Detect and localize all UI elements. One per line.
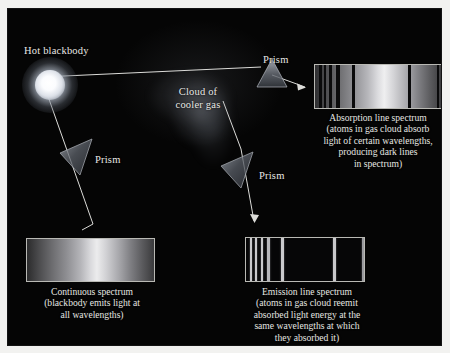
emission-line: [250, 238, 252, 281]
spectroscopy-diagram: Hot blackbody Cloud of cooler gas Prism: [0, 0, 450, 353]
label-hot-blackbody: Hot blackbody: [24, 45, 89, 56]
caption-absorption-line-5: in spectrum): [304, 158, 441, 169]
caption-absorption-line-3: light of certain wavelengths,: [304, 135, 441, 146]
absorption-line: [319, 65, 322, 108]
caption-continuous-line-3: all wavelengths): [16, 309, 168, 320]
emission-line: [333, 238, 335, 281]
emission-line: [267, 238, 271, 281]
label-cloud-line-2: cooler gas: [159, 98, 237, 111]
continuous-spectrum: [26, 238, 155, 282]
caption-emission-line-5: they absorbed it): [236, 332, 378, 343]
absorption-line: [437, 65, 440, 108]
absorption-line-spectrum: [314, 64, 441, 109]
diagram-panel: Hot blackbody Cloud of cooler gas Prism: [8, 9, 441, 345]
caption-absorption-line-2: (atoms in gas cloud absorb: [304, 123, 441, 134]
emission-line-spectrum: [245, 237, 365, 282]
arrowhead-absorption: [297, 84, 306, 91]
emission-line: [255, 238, 257, 281]
caption-absorption-line-4: producing dark lines: [304, 146, 441, 157]
arrowhead-emission: [250, 214, 259, 223]
absorption-line: [329, 65, 331, 108]
label-cloud-line-1: Cloud of: [159, 85, 237, 98]
caption-emission-line-4: same wavelengths at which: [236, 320, 378, 331]
ray-left-prism-to-continuous-spectrum: [82, 224, 93, 230]
caption-continuous-line-1: Continuous spectrum: [16, 286, 168, 297]
caption-continuous-spectrum: Continuous spectrum (blackbody emits lig…: [16, 286, 168, 320]
caption-absorption-line-1: Absorption line spectrum: [304, 112, 441, 123]
label-cloud-of-cooler-gas: Cloud of cooler gas: [159, 85, 237, 111]
prism-middle: [216, 149, 262, 191]
caption-absorption-line-spectrum: Absorption line spectrum (atoms in gas c…: [304, 112, 441, 169]
label-prism-left: Prism: [95, 154, 121, 165]
emission-line: [281, 238, 284, 281]
label-prism-top: Prism: [263, 54, 289, 65]
absorption-line: [336, 65, 340, 108]
absorption-line: [352, 65, 355, 108]
absorption-line: [324, 65, 326, 108]
caption-emission-line-2: (atoms in gas cloud reemit: [236, 297, 378, 308]
caption-emission-line-3: absorbed light energy at the: [236, 309, 378, 320]
caption-emission-line-1: Emission line spectrum: [236, 286, 378, 297]
caption-continuous-line-2: (blackbody emits light at: [16, 297, 168, 308]
emission-line: [362, 238, 364, 281]
hot-blackbody-star: [35, 70, 65, 100]
caption-emission-line-spectrum: Emission line spectrum (atoms in gas clo…: [236, 286, 378, 343]
absorption-line: [408, 65, 411, 108]
emission-line: [261, 238, 263, 281]
label-prism-middle: Prism: [259, 170, 285, 181]
